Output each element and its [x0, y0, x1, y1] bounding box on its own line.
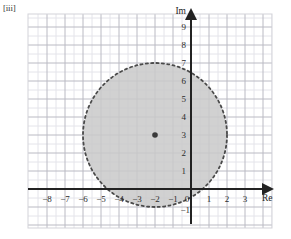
y-tick-label: 2 [182, 148, 187, 158]
x-tick-label: 1 [207, 194, 212, 204]
x-tick-label: −3 [132, 194, 142, 204]
y-tick-label: 9 [182, 22, 187, 32]
x-tick-label: −8 [42, 194, 52, 204]
y-tick-label: 3 [182, 130, 187, 140]
centre-point-marker [152, 132, 158, 138]
real-axis-title: Re [262, 193, 273, 203]
y-tick-label: 7 [182, 58, 187, 68]
x-tick-label: 3 [243, 194, 248, 204]
x-tick-label: −7 [60, 194, 70, 204]
x-tick-label: −2 [150, 194, 160, 204]
x-tick-label: −6 [78, 194, 88, 204]
x-tick-label: −4 [114, 194, 124, 204]
y-tick-label: 1 [182, 166, 187, 176]
x-tick-label: 2 [225, 194, 230, 204]
y-tick-label: 6 [182, 76, 187, 86]
imaginary-axis-title: Im [175, 6, 186, 16]
x-tick-label: −5 [96, 194, 106, 204]
y-tick-label: 8 [182, 40, 187, 50]
plot-canvas: −8 −7 −6 −5 −4 −3 −2 −1 0 1 2 3 9 8 7 6 … [0, 0, 291, 239]
y-tick-label: −1 [180, 205, 190, 215]
argand-diagram-figure: [iii] [0, 0, 291, 239]
y-tick-label: 5 [182, 94, 187, 104]
y-tick-label: 4 [182, 112, 187, 122]
x-tick-label: −1 [168, 194, 178, 204]
x-tick-label-origin: 0 [185, 194, 190, 204]
